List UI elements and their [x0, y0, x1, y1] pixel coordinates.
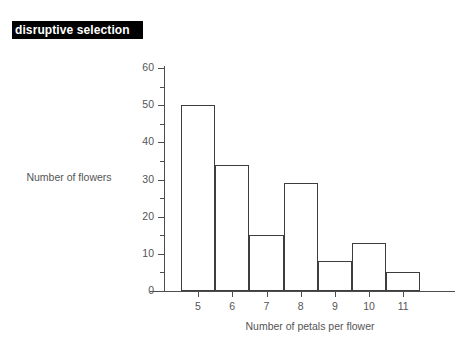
bar: [386, 272, 420, 291]
x-axis-tick-label: 5: [181, 300, 215, 312]
bar: [284, 183, 318, 291]
bar: [249, 235, 283, 291]
x-axis-tick-label: 10: [352, 300, 386, 312]
x-axis-tick: [369, 292, 370, 297]
x-axis-tick-label: 6: [215, 300, 249, 312]
x-axis-tick-label: 8: [284, 300, 318, 312]
x-axis-tick: [232, 292, 233, 297]
y-axis-tick: [158, 291, 164, 292]
y-axis-title: Number of flowers: [14, 171, 124, 183]
bar: [352, 243, 386, 291]
x-axis-line: [150, 291, 455, 292]
x-axis-tick-label: 11: [386, 300, 420, 312]
bar-series: [0, 0, 476, 291]
x-axis-tick-label: 7: [249, 300, 283, 312]
bar: [181, 105, 215, 291]
x-axis-tick: [301, 292, 302, 297]
chart-plot-region: 0102030405060 567891011 Number of petals…: [0, 0, 476, 347]
bar: [215, 165, 249, 291]
bar: [318, 261, 352, 291]
x-axis-tick: [403, 292, 404, 297]
x-axis-tick: [335, 292, 336, 297]
x-axis-tick-label: 9: [318, 300, 352, 312]
x-axis-tick: [267, 292, 268, 297]
x-axis-tick: [198, 292, 199, 297]
x-axis-title: Number of petals per flower: [160, 320, 460, 332]
